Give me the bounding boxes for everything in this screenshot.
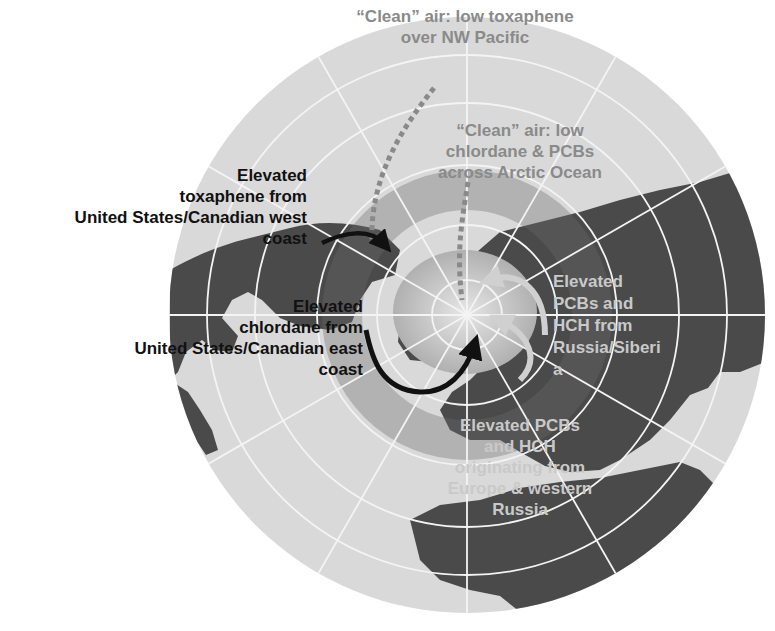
label-line: toxaphene from bbox=[20, 186, 307, 207]
label-line: a bbox=[553, 359, 693, 381]
label-line: Elevated bbox=[60, 296, 363, 317]
label-line: originating from bbox=[420, 457, 620, 478]
label-chlordane-east: Elevated chlordane from United States/Ca… bbox=[60, 296, 363, 380]
label-line: chlordane from bbox=[60, 317, 363, 338]
label-line: Russia/Siberi bbox=[553, 337, 693, 359]
label-line: “Clean” air: low bbox=[410, 120, 630, 141]
label-line: across Arctic Ocean bbox=[410, 162, 630, 183]
label-line: and HCH bbox=[420, 436, 620, 457]
label-pcbs-russia: Elevated PCBs and HCH from Russia/Siberi… bbox=[553, 271, 693, 381]
label-toxaphene-west: Elevated toxaphene from United States/Ca… bbox=[20, 165, 307, 249]
label-clean-pacific: “Clean” air: low toxaphene over NW Pacif… bbox=[300, 6, 630, 48]
label-line: Europe & western bbox=[420, 478, 620, 499]
label-line: chlordane & PCBs bbox=[410, 141, 630, 162]
label-pcbs-europe: Elevated PCBs and HCH originating from E… bbox=[420, 415, 620, 520]
label-line: Elevated PCBs bbox=[420, 415, 620, 436]
label-line: Elevated bbox=[553, 271, 693, 293]
label-line: “Clean” air: low toxaphene bbox=[300, 6, 630, 27]
label-line: coast bbox=[60, 359, 363, 380]
label-line: over NW Pacific bbox=[300, 27, 630, 48]
label-line: HCH from bbox=[553, 315, 693, 337]
label-clean-arctic: “Clean” air: low chlordane & PCBs across… bbox=[410, 120, 630, 183]
label-line: Russia bbox=[420, 499, 620, 520]
label-line: United States/Canadian west bbox=[20, 207, 307, 228]
label-line: coast bbox=[20, 228, 307, 249]
label-line: Elevated bbox=[20, 165, 307, 186]
label-line: PCBs and bbox=[553, 293, 693, 315]
label-line: United States/Canadian east bbox=[60, 338, 363, 359]
